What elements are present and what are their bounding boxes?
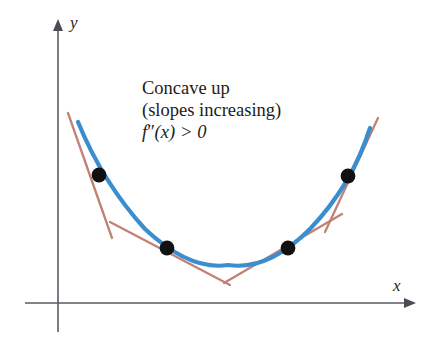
y-axis: [53, 19, 63, 332]
x-axis: [25, 298, 416, 308]
inequality-expression: (x) > 0: [154, 122, 206, 142]
function-curve: [78, 122, 370, 266]
annotation-line-concave-up: Concave up: [142, 78, 281, 100]
tangency-point-1: [92, 168, 107, 183]
concavity-figure: y x Concave up (slopes increasing) f″(x)…: [0, 0, 432, 343]
annotation-line-second-derivative: f″(x) > 0: [142, 122, 281, 144]
tangency-point-4: [341, 169, 356, 184]
annotation-line-slopes-increasing: (slopes increasing): [142, 100, 281, 122]
tangency-point-2: [160, 241, 175, 256]
concavity-annotation: Concave up (slopes increasing) f″(x) > 0: [142, 78, 281, 143]
y-axis-arrowhead: [53, 19, 63, 31]
x-axis-arrowhead: [404, 298, 416, 308]
y-axis-label: y: [70, 14, 78, 31]
diagram-canvas: [0, 0, 432, 343]
tangency-point-3: [281, 241, 296, 256]
x-axis-label: x: [393, 277, 401, 294]
